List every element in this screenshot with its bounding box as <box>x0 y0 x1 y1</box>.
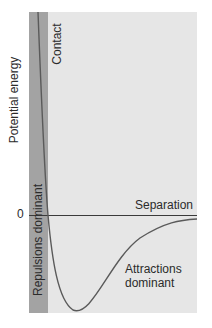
attractions-line-1: Attractions <box>125 262 182 276</box>
zero-tick-label: 0 <box>17 207 24 221</box>
x-axis-label: Separation <box>135 198 193 212</box>
repulsions-dominant-label: Repulsions dominant <box>31 184 45 296</box>
attractions-line-2: dominant <box>125 276 182 290</box>
contact-label: Contact <box>50 23 64 64</box>
attractions-dominant-label: Attractions dominant <box>125 262 182 290</box>
y-axis-label: Potential energy <box>7 57 21 144</box>
